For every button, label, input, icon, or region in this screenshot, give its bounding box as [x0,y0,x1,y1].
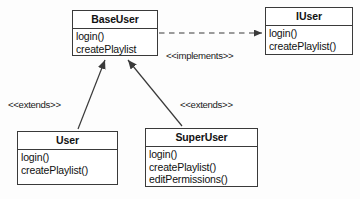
edge-extends-user [78,60,105,129]
class-member: createPlaylist [76,43,157,56]
class-member: login() [21,151,117,164]
stereotype-label-implements: <<implements>> [166,50,233,61]
class-name-baseuser: BaseUser [73,11,157,29]
class-box-iuser[interactable]: IUser login() createPlaylist() [265,7,353,55]
class-name-user: User [18,132,117,150]
class-member: login() [76,30,157,43]
class-box-baseuser[interactable]: BaseUser login() createPlaylist [72,10,158,56]
class-member: editPermissions() [149,173,257,186]
class-members-iuser: login() createPlaylist() [266,26,352,54]
class-member: createPlaylist() [21,164,117,177]
class-members-baseuser: login() createPlaylist [73,29,157,57]
uml-class-diagram: BaseUser login() createPlaylist IUser lo… [0,0,360,199]
class-members-user: login() createPlaylist() [18,150,117,184]
class-box-superuser[interactable]: SuperUser login() createPlaylist() editP… [145,128,258,187]
class-member: createPlaylist() [269,40,352,53]
class-member: createPlaylist() [149,161,257,174]
stereotype-label-extends-superuser: <<extends>> [180,99,233,110]
stereotype-label-extends-user: <<extends>> [8,99,61,110]
class-name-superuser: SuperUser [146,129,257,147]
class-box-user[interactable]: User login() createPlaylist() [17,131,118,185]
edge-extends-superuser [128,60,182,126]
class-name-iuser: IUser [266,8,352,26]
class-member: login() [149,148,257,161]
class-members-superuser: login() createPlaylist() editPermissions… [146,147,257,188]
class-member: login() [269,27,352,40]
